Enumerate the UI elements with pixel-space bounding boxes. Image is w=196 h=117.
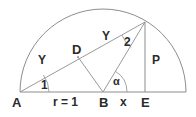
diagram-canvas	[0, 0, 196, 117]
segment-label-gamma-left: Y	[38, 54, 46, 66]
angle-label-one: 1	[41, 79, 48, 91]
segment-d-to-b	[78, 57, 103, 92]
point-label-e: E	[141, 96, 150, 109]
point-label-a: A	[12, 96, 21, 109]
geometry-figure: A B E D r = 1 x P Y Y 1 2 α	[0, 0, 196, 117]
segment-label-p: P	[152, 54, 160, 66]
point-label-b: B	[99, 96, 108, 109]
segment-label-gamma-right: Y	[102, 30, 110, 42]
segment-label-radius: r = 1	[53, 96, 78, 108]
angle-label-two: 2	[124, 36, 131, 48]
point-label-d: D	[72, 43, 81, 56]
segment-label-x: x	[120, 96, 127, 108]
angle-label-alpha: α	[113, 76, 120, 87]
